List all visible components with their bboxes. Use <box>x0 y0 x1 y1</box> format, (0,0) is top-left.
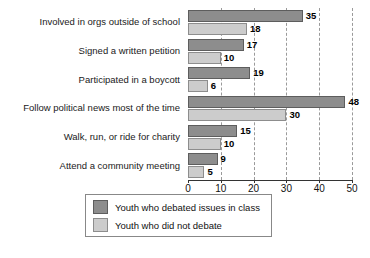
category-label-0: Involved in orgs outside of school <box>0 16 180 27</box>
legend-item-debated: Youth who debated issues in class <box>93 199 260 215</box>
category-label-2: Participated in a boycott <box>0 74 180 85</box>
bar-value-3-series-1: 30 <box>289 110 300 120</box>
category-label-3: Follow political news most of the time <box>0 102 180 113</box>
legend-swatch-light-icon <box>93 218 108 232</box>
bar-5-series-0 <box>188 153 218 165</box>
bar-1-series-1 <box>188 52 221 64</box>
bar-3-series-1 <box>188 109 286 121</box>
category-axis-labels: Involved in orgs outside of schoolSigned… <box>0 8 184 180</box>
bar-value-5-series-1: 5 <box>207 167 212 177</box>
bar-value-4-series-1: 10 <box>224 139 235 149</box>
bar-value-2-series-0: 19 <box>253 68 264 78</box>
category-label-1: Signed a written petition <box>0 45 180 56</box>
bar-2-series-0 <box>188 67 250 79</box>
bar-5-series-1 <box>188 166 204 178</box>
legend-item-not-debated: Youth who did not debate <box>93 217 222 233</box>
bar-value-4-series-0: 15 <box>240 126 251 136</box>
legend-label-not-debated: Youth who did not debate <box>115 220 222 231</box>
bar-value-1-series-1: 10 <box>224 53 235 63</box>
gridline-30 <box>286 8 287 180</box>
bar-2-series-1 <box>188 80 208 92</box>
bar-4-series-1 <box>188 138 221 150</box>
legend-label-debated: Youth who debated issues in class <box>115 202 260 213</box>
gridline-40 <box>319 8 320 180</box>
legend-swatch-dark-icon <box>93 200 108 214</box>
x-axis-line <box>188 180 353 181</box>
gridline-50 <box>352 8 353 180</box>
bar-value-0-series-1: 18 <box>250 24 261 34</box>
x-tick-label-30: 30 <box>274 183 298 195</box>
x-tick-label-40: 40 <box>307 183 331 195</box>
bar-0-series-1 <box>188 23 247 35</box>
x-tick-label-50: 50 <box>340 183 364 195</box>
bar-chart: Involved in orgs outside of schoolSigned… <box>0 0 370 258</box>
bar-value-1-series-0: 17 <box>247 40 258 50</box>
category-label-5: Attend a community meeting <box>0 160 180 171</box>
bar-3-series-0 <box>188 96 345 108</box>
plot-area: 351817101964830151095 <box>188 8 352 180</box>
category-label-4: Walk, run, or ride for charity <box>0 131 180 142</box>
bar-value-0-series-0: 35 <box>306 11 317 21</box>
bar-4-series-0 <box>188 125 237 137</box>
bar-value-5-series-0: 9 <box>221 154 226 164</box>
bar-0-series-0 <box>188 10 303 22</box>
chart-legend: Youth who debated issues in class Youth … <box>85 194 272 237</box>
bar-1-series-0 <box>188 39 244 51</box>
bar-value-2-series-1: 6 <box>211 81 216 91</box>
bar-value-3-series-0: 48 <box>348 97 359 107</box>
